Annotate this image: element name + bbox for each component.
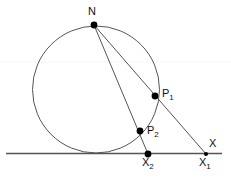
line-label-x: X xyxy=(209,138,216,149)
point-label-x2-subscript: 2 xyxy=(149,162,153,171)
point-label-n-text: N xyxy=(88,5,96,17)
point-label-x2: X2 xyxy=(142,157,154,171)
point-label-x1-subscript: 1 xyxy=(206,162,210,171)
line-label-x-text: X xyxy=(209,137,216,149)
point-n-dot xyxy=(91,22,98,29)
geometry-figure: N P1 P2 X2 X1 X xyxy=(0,0,231,181)
point-p1-dot xyxy=(152,93,159,100)
point-label-p2: P2 xyxy=(147,125,159,139)
point-label-p1: P1 xyxy=(162,88,174,102)
secant-line-n-x2 xyxy=(94,25,148,154)
point-label-p1-subscript: 1 xyxy=(169,93,173,102)
point-p2-dot xyxy=(137,128,144,135)
figure-canvas xyxy=(0,0,231,181)
point-label-p2-subscript: 2 xyxy=(154,130,158,139)
point-label-x1: X1 xyxy=(199,157,211,171)
point-label-n: N xyxy=(88,6,96,17)
